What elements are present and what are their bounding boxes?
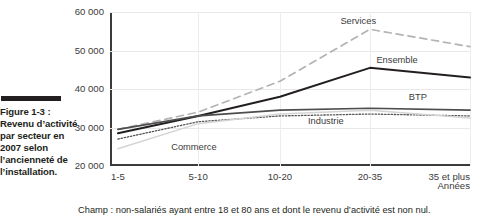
series-lines [110, 12, 470, 166]
series-label-services: Services [340, 16, 376, 26]
y-axis-labels: 20 00030 00040 00050 00060 000 [46, 12, 104, 166]
gridline-vertical [470, 12, 471, 166]
series-label-commerce: Commerce [171, 142, 216, 152]
series-label-btp: BTP [409, 92, 427, 102]
series-label-ensemble: Ensemble [376, 55, 417, 65]
figure-root: Figure 1-3 : Revenu d’activité par secte… [0, 0, 502, 224]
figure-footnote: Champ : non-salariés ayant entre 18 et 8… [78, 205, 430, 215]
plot-area: ServicesEnsembleBTPIndustrieCommerce [110, 12, 470, 166]
x-axis-tick-label: 1-5 [111, 171, 125, 182]
y-axis-tick-label: 30 000 [50, 122, 104, 133]
series-label-industrie: Industrie [308, 116, 344, 126]
y-axis-tick-label: 50 000 [50, 45, 104, 56]
x-axis-labels: Années 1-55-1010-2020-3535 et plus [110, 169, 470, 195]
x-axis-tick-label: 35 et plus [428, 171, 470, 182]
y-axis-tick-label: 60 000 [50, 6, 104, 17]
y-axis-tick-label: 20 000 [50, 160, 104, 171]
y-axis-tick-label: 40 000 [50, 83, 104, 94]
x-axis-tick-label: 10-20 [268, 171, 293, 182]
x-axis-tick-label: 5-10 [189, 171, 208, 182]
x-axis-tick-label: 20-35 [358, 171, 383, 182]
